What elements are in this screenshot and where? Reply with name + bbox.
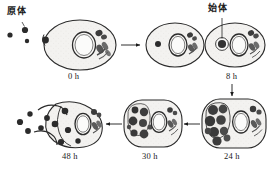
time-label-30h: 30 h [142, 152, 158, 161]
host-cell-0h [42, 20, 116, 70]
host-cell-30h [124, 100, 182, 147]
free-elementary-bodies-bottom [17, 111, 33, 134]
diagram-canvas [0, 0, 275, 174]
elementary-body-leader [22, 22, 25, 27]
nucleus-0h [73, 32, 96, 58]
nucleus-8h [230, 34, 248, 56]
nucleus-48h [75, 113, 91, 134]
time-label-8h: 8 h [226, 72, 237, 81]
initial-body-label: 始体 [208, 4, 227, 13]
nucleus-intermediate [169, 34, 187, 56]
cycle-diagram-figure: 原体 始体 0 h 8 h 24 h 30 h 48 h [0, 0, 275, 174]
host-cell-intermediate [146, 23, 204, 67]
elementary-body-label: 原体 [7, 7, 26, 16]
internalized-elementary-body [155, 41, 161, 47]
host-cell-24h [202, 99, 266, 148]
host-cell-8h [205, 18, 265, 67]
nucleus-24h [233, 111, 250, 133]
inclusion-vacuole-8h [216, 38, 229, 51]
host-cell-48h [34, 102, 103, 148]
nucleus-30h [151, 112, 167, 133]
time-label-48h: 48 h [62, 152, 78, 161]
free-elementary-bodies-top [7, 27, 29, 43]
time-label-24h: 24 h [224, 152, 240, 161]
initial-body [218, 40, 226, 48]
time-label-0h: 0 h [68, 72, 79, 81]
